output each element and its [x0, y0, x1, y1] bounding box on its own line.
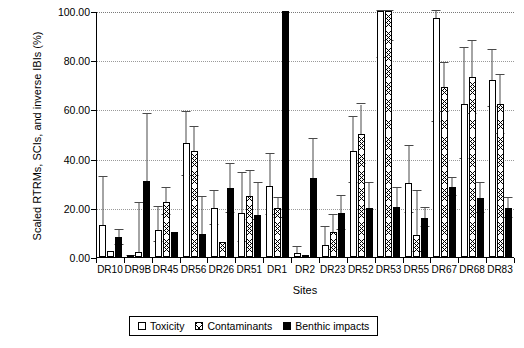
bar-contaminants[interactable]: [219, 242, 226, 257]
bar-toxicity[interactable]: [405, 183, 412, 257]
bar-contaminants[interactable]: [441, 87, 448, 257]
x-axis-tick-mark: [291, 258, 292, 263]
bar-toxicity[interactable]: [99, 225, 106, 257]
bar-benthic[interactable]: [115, 237, 122, 257]
bar-slot: [505, 12, 512, 257]
bar-benthic[interactable]: [421, 218, 428, 257]
bar-toxicity[interactable]: [433, 18, 440, 257]
bar-contaminants[interactable]: [135, 252, 142, 257]
bar-slot: [449, 12, 456, 257]
bar-toxicity[interactable]: [211, 208, 218, 257]
legend-item[interactable]: Contaminants: [195, 320, 272, 332]
bar-toxicity[interactable]: [489, 80, 496, 257]
bar-benthic[interactable]: [505, 208, 512, 257]
bar-benthic[interactable]: [393, 207, 400, 257]
bar-benthic[interactable]: [143, 181, 150, 257]
bar-slot: [385, 12, 392, 257]
bar-slot: [433, 12, 440, 257]
bar-contaminants[interactable]: [330, 232, 337, 257]
bar-slot: [358, 12, 365, 257]
y-axis-tick-label: 0.00: [28, 252, 90, 264]
x-axis-tick-label: DR10: [96, 264, 124, 275]
x-axis-tick-label: DR45: [152, 264, 180, 275]
bar-benthic[interactable]: [338, 213, 345, 257]
bar-slot: [143, 12, 150, 257]
error-bar: [138, 203, 139, 252]
error-bar-cap-upper: [210, 190, 219, 191]
legend-label: Contaminants: [207, 320, 272, 332]
bar-contaminants[interactable]: [469, 77, 476, 257]
bar-contaminants[interactable]: [497, 104, 504, 257]
x-axis-tick-label: DR51: [235, 264, 263, 275]
y-axis-tick-label: 60.00: [28, 104, 90, 116]
bar-contaminants[interactable]: [358, 134, 365, 257]
bar-slot: [183, 12, 190, 257]
bar-toxicity[interactable]: [155, 230, 162, 257]
bar-slot: [282, 12, 289, 257]
bar-toxicity[interactable]: [350, 151, 357, 257]
bar-contaminants[interactable]: [107, 251, 114, 257]
bar-benthic[interactable]: [449, 187, 456, 257]
bar-group: [180, 12, 208, 257]
bar-contaminants[interactable]: [385, 11, 392, 257]
bar-slot: [421, 12, 428, 257]
bar-benthic[interactable]: [477, 198, 484, 257]
x-axis-tick-mark: [263, 258, 264, 263]
bar-benthic[interactable]: [199, 234, 206, 257]
bar-toxicity[interactable]: [238, 213, 245, 257]
error-bar-cap-upper: [245, 170, 254, 171]
bar-slot: [338, 12, 345, 257]
x-axis-tick-mark: [152, 258, 153, 263]
bar-toxicity[interactable]: [322, 245, 329, 257]
error-bar-cap-upper: [154, 206, 163, 207]
bar-contaminants[interactable]: [302, 255, 309, 257]
x-axis-tick-label: DR1: [263, 264, 291, 275]
bar-benthic[interactable]: [310, 178, 317, 257]
bar-group: [319, 12, 347, 257]
chart-legend: ToxicityContaminantsBenthic impacts: [129, 316, 378, 336]
bar-contaminants[interactable]: [246, 196, 253, 258]
bar-toxicity[interactable]: [377, 11, 384, 257]
error-bar-cap-upper: [404, 145, 413, 146]
bar-slot: [199, 12, 206, 257]
error-bar-cap-upper: [134, 202, 143, 203]
y-axis-tick-mark: [91, 12, 96, 13]
error-bar: [369, 183, 370, 208]
bar-group: [431, 12, 459, 257]
x-axis-tick-mark: [96, 258, 97, 263]
bar-slot: [171, 12, 178, 257]
error-bar: [396, 188, 397, 206]
x-axis-labels: DR10DR9BDR45DR56DR26DR51DR1DR2DR23DR52DR…: [96, 264, 514, 275]
bar-benthic[interactable]: [171, 232, 178, 257]
legend-label: Toxicity: [150, 320, 184, 332]
bar-group: [347, 12, 375, 257]
bar-contaminants[interactable]: [274, 208, 281, 257]
bar-benthic[interactable]: [254, 215, 261, 257]
x-axis-tick-mark: [486, 258, 487, 263]
legend-item[interactable]: Benthic impacts: [283, 320, 369, 332]
bar-toxicity[interactable]: [266, 186, 273, 257]
error-bar-cap-upper: [237, 172, 246, 173]
error-bar-cap-upper: [265, 153, 274, 154]
error-bar-cap-upper: [496, 74, 505, 75]
bar-contaminants[interactable]: [413, 235, 420, 257]
bar-toxicity[interactable]: [127, 255, 134, 257]
bar-toxicity[interactable]: [183, 143, 190, 257]
plot-area: [96, 12, 514, 258]
bar-slot: [135, 12, 142, 257]
bar-benthic[interactable]: [227, 188, 234, 257]
bar-contaminants[interactable]: [163, 202, 170, 257]
bar-contaminants[interactable]: [191, 151, 198, 257]
error-bar-cap-upper: [253, 182, 262, 183]
bar-benthic[interactable]: [282, 11, 289, 257]
legend-item[interactable]: Toxicity: [138, 320, 184, 332]
bar-slot: [246, 12, 253, 257]
bar-groups: [97, 12, 514, 257]
x-axis-tick-label: DR68: [458, 264, 486, 275]
bar-toxicity[interactable]: [461, 104, 468, 257]
error-bar-cap-upper: [114, 229, 123, 230]
bar-toxicity[interactable]: [294, 253, 301, 257]
error-bar-cap-upper: [440, 62, 449, 63]
bar-benthic[interactable]: [366, 208, 373, 257]
bar-slot: [330, 12, 337, 257]
